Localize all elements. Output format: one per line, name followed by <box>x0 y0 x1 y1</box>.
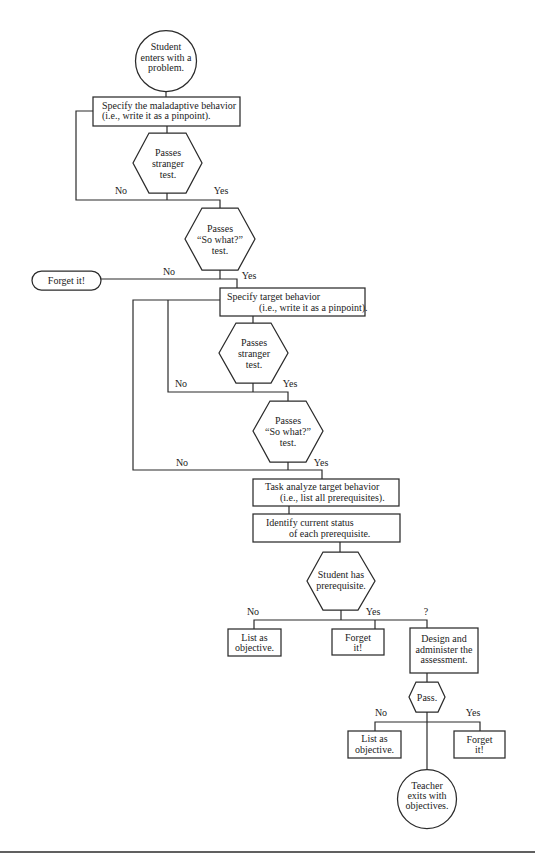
forget-it-1-label: Forget it! <box>332 633 384 653</box>
stranger-test-1-line: Passes <box>133 147 203 158</box>
so-what-test-1-line: Passes <box>185 223 255 234</box>
stranger-test-2-line: Passes <box>219 337 289 348</box>
specify-target-line: Specify target behavior <box>227 292 320 303</box>
so-what-test-2-line: test. <box>253 437 323 448</box>
so-what-test-2-line: Passes <box>253 415 323 426</box>
edge-label-stranger-2-yes: Yes <box>277 378 303 390</box>
edge-label-stranger-1-no: No <box>108 185 134 197</box>
connector-so-what-1-branch <box>101 279 237 288</box>
stranger-test-1-line: test. <box>133 169 203 180</box>
list-objective-2-line: objective. <box>348 745 401 756</box>
student-has-prereq-label: Student has prerequisite. <box>307 569 375 591</box>
design-assessment-line: assessment. <box>410 655 478 666</box>
forget-it-2-label: Forget it! <box>454 735 505 755</box>
forget-it-terminal-line: Forget it! <box>32 275 101 286</box>
edge-label-so-what-2-yes: Yes <box>308 457 334 469</box>
edge-label-prereq-yes: Yes <box>360 606 386 618</box>
list-objective-1-label: List as objective. <box>228 633 281 653</box>
start-label: Student enters with a problem. <box>135 42 197 74</box>
design-assessment-label: Design and administer the assessment. <box>410 634 478 666</box>
so-what-test-2-line: “So what?” <box>253 426 323 437</box>
specify-maladaptive-line: (i.e., write it as a pinpoint). <box>102 111 236 122</box>
end-label: Teacher exits with objectives. <box>397 781 457 811</box>
stranger-test-1-label: Passes stranger test. <box>133 147 203 180</box>
stranger-test-2-line: test. <box>219 359 289 370</box>
list-objective-2-line: List as <box>348 734 401 745</box>
so-what-test-2-label: Passes “So what?” test. <box>253 415 323 448</box>
end-label-line: objectives. <box>397 801 457 811</box>
list-objective-2-label: List as objective. <box>348 734 401 755</box>
design-assessment-line: Design and <box>410 634 478 645</box>
identify-status-line: of each prerequisite. <box>289 529 370 540</box>
forget-it-1-line: it! <box>332 643 384 653</box>
specify-target-line: (i.e., write it as a pinpoint). <box>259 303 368 314</box>
specify-maladaptive-label: Specify the maladaptive behavior (i.e., … <box>102 101 236 122</box>
start-label-line: problem. <box>135 63 197 74</box>
stranger-test-1-line: stranger <box>133 158 203 169</box>
edge-label-pass-no: No <box>368 707 394 719</box>
pass-line: Pass. <box>409 692 445 703</box>
edge-label-prereq-unknown: ? <box>413 606 439 618</box>
forget-it-2-line: it! <box>454 745 505 755</box>
edge-label-stranger-2-no: No <box>168 378 194 390</box>
so-what-test-1-label: Passes “So what?” test. <box>185 223 255 256</box>
forget-it-terminal-label: Forget it! <box>32 275 101 286</box>
edge-label-prereq-no: No <box>240 606 266 618</box>
stranger-test-2-line: stranger <box>219 348 289 359</box>
edge-label-so-what-1-no: No <box>156 266 182 278</box>
so-what-test-1-line: “So what?” <box>185 234 255 245</box>
flowchart-page: Student enters with a problem. Specify t… <box>0 0 535 865</box>
edge-label-stranger-1-yes: Yes <box>208 185 234 197</box>
edge-label-so-what-1-yes: Yes <box>236 270 262 282</box>
edge-label-so-what-2-no: No <box>169 457 195 469</box>
student-has-prereq-line: prerequisite. <box>307 580 375 591</box>
task-analyze-line: (i.e., list all prerequisites). <box>280 493 385 504</box>
pass-label: Pass. <box>409 692 445 703</box>
connector-prereq-branch <box>254 620 427 629</box>
list-objective-1-line: objective. <box>228 643 281 653</box>
task-analyze-line: Task analyze target behavior <box>265 482 379 493</box>
stranger-test-2-label: Passes stranger test. <box>219 337 289 370</box>
student-has-prereq-line: Student has <box>307 569 375 580</box>
start-label-line: Student <box>135 42 197 53</box>
identify-status-line: Identify current status <box>266 518 354 529</box>
edge-label-pass-yes: Yes <box>460 707 486 719</box>
so-what-test-1-line: test. <box>185 245 255 256</box>
